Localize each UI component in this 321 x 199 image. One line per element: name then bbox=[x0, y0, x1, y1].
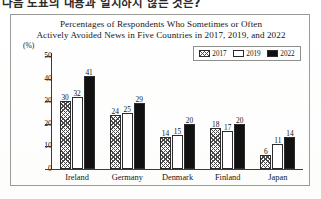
bar-value-label: 15 bbox=[174, 127, 181, 136]
question-prompt-text: 다음 도표의 내용과 일치하지 않는 것은? bbox=[0, 0, 321, 10]
bar-finland-2017: 18 bbox=[210, 128, 221, 169]
bar-value-label: 24 bbox=[112, 107, 119, 116]
bar-value-label: 6 bbox=[264, 147, 268, 156]
bar-germany-2017: 24 bbox=[110, 115, 121, 169]
x-axis-category-label-germany: Germany bbox=[112, 173, 143, 182]
bar-germany-2019: 25 bbox=[122, 113, 133, 170]
x-axis-category-label-denmark: Denmark bbox=[162, 173, 193, 182]
bar-japan-2017: 6 bbox=[260, 155, 271, 169]
bar-japan-2022: 14 bbox=[284, 137, 295, 169]
bar-value-label: 41 bbox=[85, 68, 92, 77]
bar-value-label: 29 bbox=[136, 95, 143, 104]
bar-value-label: 30 bbox=[61, 93, 68, 102]
bar-denmark-2022: 20 bbox=[184, 124, 195, 169]
bar-finland-2019: 17 bbox=[222, 131, 233, 169]
bar-ireland-2017: 30 bbox=[60, 101, 71, 169]
bar-value-label: 20 bbox=[236, 116, 243, 125]
bar-value-label: 25 bbox=[124, 105, 131, 114]
bar-value-label: 14 bbox=[162, 129, 169, 138]
bar-finland-2022: 20 bbox=[234, 124, 245, 169]
chart-plot-area: 303241Ireland242529Germany141520Denmark1… bbox=[11, 15, 311, 187]
prompt-text: 다음 도표의 내용과 일치하지 않는 것은? bbox=[2, 0, 200, 10]
bar-ireland-2019: 32 bbox=[72, 97, 83, 169]
bar-value-label: 11 bbox=[274, 136, 281, 145]
bar-value-label: 32 bbox=[73, 89, 80, 98]
bar-ireland-2022: 41 bbox=[84, 76, 95, 169]
x-axis-category-label-finland: Finland bbox=[215, 173, 241, 182]
x-axis-category-label-japan: Japan bbox=[268, 173, 287, 182]
bar-value-label: 18 bbox=[212, 120, 219, 129]
x-axis-category-label-ireland: Ireland bbox=[65, 173, 89, 182]
bar-japan-2019: 11 bbox=[272, 144, 283, 169]
bar-denmark-2019: 15 bbox=[172, 135, 183, 169]
bar-value-label: 14 bbox=[286, 129, 293, 138]
bar-value-label: 17 bbox=[224, 123, 231, 132]
bar-denmark-2017: 14 bbox=[160, 137, 171, 169]
bar-value-label: 20 bbox=[186, 116, 193, 125]
bar-germany-2022: 29 bbox=[134, 103, 145, 169]
chart-container: Percentages of Respondents Who Sometimes… bbox=[10, 14, 310, 186]
